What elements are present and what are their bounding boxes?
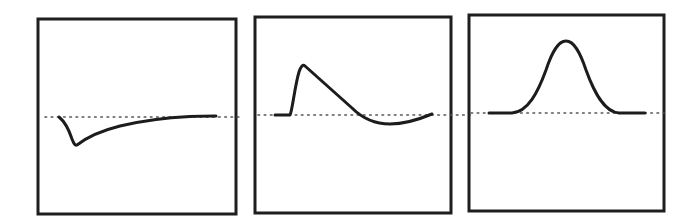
waveform-figure xyxy=(0,0,695,221)
panel-2 xyxy=(255,17,470,213)
panel-1 xyxy=(38,19,240,214)
panel-1-waveform xyxy=(59,116,216,145)
panel-3-waveform xyxy=(489,41,645,113)
panel-3 xyxy=(469,15,664,211)
